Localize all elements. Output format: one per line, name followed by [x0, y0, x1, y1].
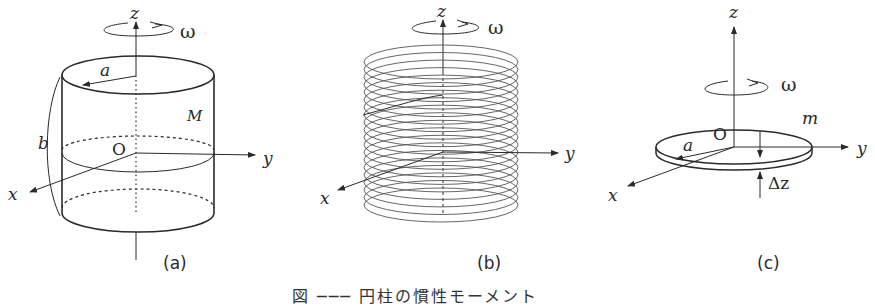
- ring: [364, 75, 518, 109]
- ring: [364, 188, 518, 222]
- y-axis-arrow: [443, 152, 558, 153]
- panel-a-height-label: b: [38, 135, 49, 152]
- ring: [364, 120, 518, 154]
- rotation-arrowhead: [457, 20, 468, 27]
- panel-c-x-label: x: [608, 187, 618, 204]
- panel-a-radius-label: a: [100, 62, 110, 79]
- cylinder-top-ellipse: [62, 56, 214, 94]
- panel-a-mass-label: M: [187, 109, 202, 124]
- ring: [364, 98, 518, 132]
- ring: [364, 158, 518, 192]
- panel-a-y-label: y: [263, 150, 273, 167]
- ring: [364, 181, 518, 215]
- x-axis-arrow: [628, 147, 734, 186]
- panel-a-sublabel: (a): [163, 255, 187, 272]
- ring: [364, 165, 518, 199]
- ring: [364, 150, 518, 184]
- ring: [364, 45, 518, 79]
- rotation-arrow-omega: [412, 21, 478, 34]
- ring: [364, 105, 518, 139]
- ring: [364, 83, 518, 117]
- ring: [364, 173, 518, 207]
- panel-c-thickness-label: Δz: [768, 175, 789, 192]
- panel-c-mass-label: m: [802, 110, 818, 127]
- rotation-arrowhead: [150, 22, 162, 28]
- ring: [364, 60, 518, 94]
- cylinder-bottom-front: [62, 213, 214, 232]
- cylinder-mid-back: [62, 136, 214, 150]
- panel-c-origin-label: O: [713, 126, 727, 143]
- panel-b-sublabel: (b): [477, 255, 501, 272]
- figure-caption: 図 ─── 円柱の慣性モーメント: [292, 283, 538, 307]
- rotation-arrowhead: [747, 79, 758, 86]
- ring: [364, 113, 518, 147]
- panel-a-x-label: x: [8, 186, 18, 203]
- panel-b-x-label: x: [320, 190, 330, 207]
- cylinder-bottom-back: [62, 189, 214, 208]
- panel-b-z-label: z: [437, 3, 446, 20]
- ring: [364, 68, 518, 102]
- panel-b-omega-label: ω: [488, 18, 504, 37]
- panel-c-omega-label: ω: [781, 75, 797, 94]
- ring-stack: [364, 45, 518, 222]
- panel-a-solid-cylinder: [30, 22, 255, 260]
- panel-c-sublabel: (c): [757, 255, 780, 272]
- panel-b-ring-stack: [338, 20, 558, 222]
- panel-c-y-label: y: [857, 140, 867, 157]
- panel-a-z-label: z: [130, 5, 139, 22]
- panel-c-z-label: z: [729, 4, 738, 21]
- y-axis-arrow: [136, 153, 255, 155]
- ring: [364, 53, 518, 87]
- panel-b-y-label: y: [565, 145, 575, 162]
- height-b-brace: [47, 77, 60, 216]
- panel-a-origin-label: O: [112, 141, 126, 158]
- ring: [364, 128, 518, 162]
- panel-c-radius-label: a: [683, 137, 693, 154]
- cylinder-mid-front: [62, 153, 214, 172]
- panel-a-omega-label: ω: [180, 22, 196, 41]
